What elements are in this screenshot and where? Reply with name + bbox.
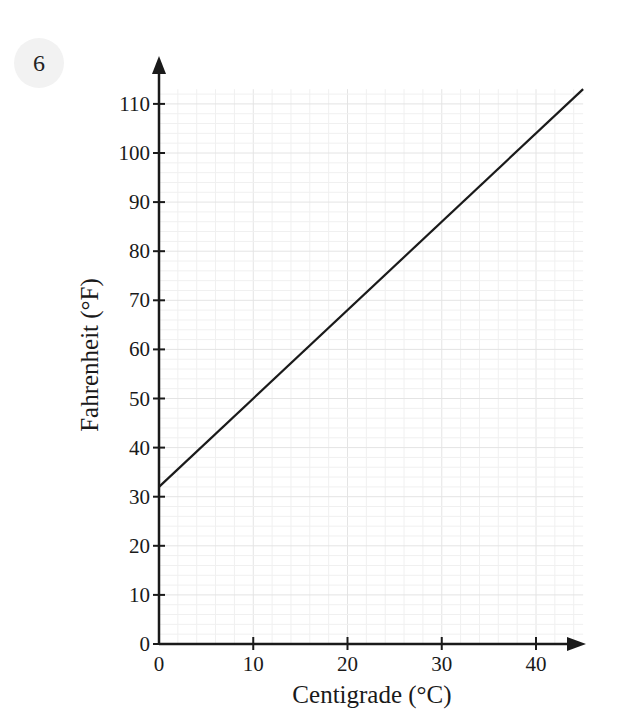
y-tick-label: 90 xyxy=(129,190,150,214)
axes xyxy=(152,56,586,651)
y-tick-label: 0 xyxy=(140,632,151,656)
x-tick-label: 30 xyxy=(431,652,452,676)
x-tick-label: 10 xyxy=(243,652,264,676)
y-tick-label: 110 xyxy=(119,92,150,116)
y-tick-label: 50 xyxy=(129,387,150,411)
x-axis-arrow-icon xyxy=(567,637,586,651)
x-tick-label: 0 xyxy=(154,652,165,676)
y-tick-label: 80 xyxy=(129,239,150,263)
y-tick-label: 40 xyxy=(129,436,150,460)
temperature-conversion-chart: 0102030405060708090100110 010203040 Cent… xyxy=(0,0,618,716)
x-tick-label: 40 xyxy=(526,652,547,676)
conversion-line xyxy=(159,89,583,487)
y-tick-label: 30 xyxy=(129,485,150,509)
y-tick-label: 100 xyxy=(119,141,151,165)
y-tick-label: 70 xyxy=(129,288,150,312)
y-axis-title: Fahrenheit (°F) xyxy=(76,278,104,432)
y-tick-label: 60 xyxy=(129,337,150,361)
series-line xyxy=(159,89,583,487)
x-tick-label: 20 xyxy=(337,652,358,676)
y-tick-label: 10 xyxy=(129,583,150,607)
y-tick-label: 20 xyxy=(129,534,150,558)
y-axis-arrow-icon xyxy=(152,56,166,74)
x-axis-title: Centigrade (°C) xyxy=(292,681,451,709)
grid xyxy=(159,89,583,644)
